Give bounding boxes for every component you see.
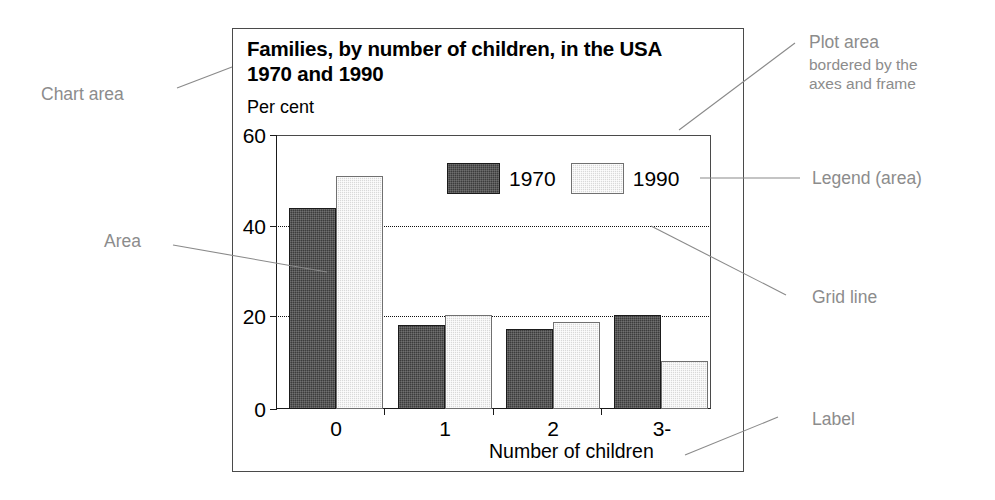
bar-1970-cat-0 (289, 208, 336, 409)
x-tick-label-2: 2 (518, 418, 588, 440)
y-tick-60 (270, 135, 277, 136)
leader-chart-area (177, 67, 232, 88)
bar-1970-cat-1 (398, 325, 445, 409)
y-tick-label-0: 0 (222, 399, 266, 420)
bar-1990-cat-1 (445, 315, 492, 409)
legend-item-1990: 1990 (571, 163, 680, 194)
x-tick-sep-1 (384, 409, 385, 415)
chart-title: Families, by number of children, in the … (247, 36, 699, 86)
y-tick-label-60: 60 (222, 125, 266, 146)
legend-swatch-1970 (447, 163, 500, 194)
legend-label-1970: 1970 (509, 168, 556, 189)
diagram-stage: Families, by number of children, in the … (0, 0, 995, 500)
y-tick-label-40: 40 (222, 216, 266, 237)
legend-item-1970: 1970 (447, 163, 556, 194)
x-tick-label-3: 3- (627, 418, 697, 440)
annotation-area: Area (104, 231, 141, 251)
bar-1970-cat-3 (614, 315, 661, 409)
annotation-legend-area: Legend (area) (812, 168, 922, 188)
x-tick-label-1: 1 (410, 418, 480, 440)
y-tick-label-20: 20 (222, 306, 266, 327)
x-tick-sep-2 (493, 409, 494, 415)
y-tick-20 (270, 316, 277, 317)
bar-1990-cat-3 (661, 361, 708, 409)
bar-1970-cat-2 (506, 329, 553, 409)
annotation-chart-area: Chart area (41, 84, 124, 104)
x-tick-sep-3 (601, 409, 602, 415)
y-axis-title: Per cent (247, 97, 314, 118)
y-tick-0 (270, 409, 277, 410)
legend-swatch-1990 (571, 163, 624, 194)
annotation-label: Label (812, 409, 855, 429)
y-tick-40 (270, 226, 277, 227)
annotation-plot-area: Plot area (809, 32, 879, 52)
legend-label-1990: 1990 (633, 168, 680, 189)
x-axis-title: Number of children (489, 440, 654, 463)
x-tick-label-0: 0 (301, 418, 371, 440)
legend: 1970 1990 (447, 163, 679, 194)
bar-1990-cat-2 (553, 322, 600, 409)
bar-1990-cat-0 (336, 176, 383, 409)
annotation-plot-area-desc: bordered by the axes and frame (809, 55, 918, 93)
annotation-grid-line: Grid line (812, 287, 877, 307)
